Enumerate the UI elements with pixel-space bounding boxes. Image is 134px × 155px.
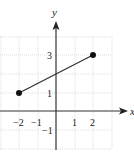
x-tick-2: 2: [90, 117, 95, 128]
x-tick-1: 1: [72, 117, 77, 128]
endpoint-left: [16, 90, 22, 96]
x-tick-minus2: −2: [13, 117, 24, 128]
x-tick-minus1: −1: [31, 117, 42, 128]
x-axis-label: x: [129, 105, 134, 117]
y-axis-label: y: [51, 6, 57, 18]
y-tick-3: 3: [47, 50, 52, 61]
y-tick-minus1: −1: [42, 125, 53, 136]
y-tick-1: 1: [47, 88, 52, 99]
coordinate-plot: x y −2 −1 1 2 3 1 −1: [0, 0, 134, 155]
endpoint-right: [90, 52, 96, 58]
